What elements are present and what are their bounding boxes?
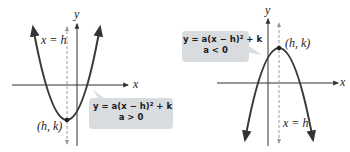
left-y-axis-label: y xyxy=(74,7,79,22)
right-axis-of-symmetry-label: x = h xyxy=(283,116,308,131)
right-vertex-label: (h, k) xyxy=(285,36,310,51)
left-vertex-label: (h, k) xyxy=(37,119,62,134)
right-x-axis-label: x xyxy=(340,75,345,90)
right-vertex-point xyxy=(277,46,281,50)
right-y-axis-label: y xyxy=(265,3,270,18)
left-x-axis-label: x xyxy=(133,77,138,92)
right-equation-callout: y = a(x − h)² + k a < 0 xyxy=(182,31,249,62)
right-equation: y = a(x − h)² + k xyxy=(183,34,248,45)
right-condition: a < 0 xyxy=(183,45,248,56)
left-callout-pointer xyxy=(93,90,104,98)
left-vertex-point xyxy=(65,118,69,122)
left-equation: y = a(x − h)² + k xyxy=(93,101,169,112)
left-condition: a > 0 xyxy=(93,112,169,123)
left-axis-of-symmetry-label: x = h xyxy=(41,33,66,48)
left-equation-callout: y = a(x − h)² + k a > 0 xyxy=(89,98,173,129)
